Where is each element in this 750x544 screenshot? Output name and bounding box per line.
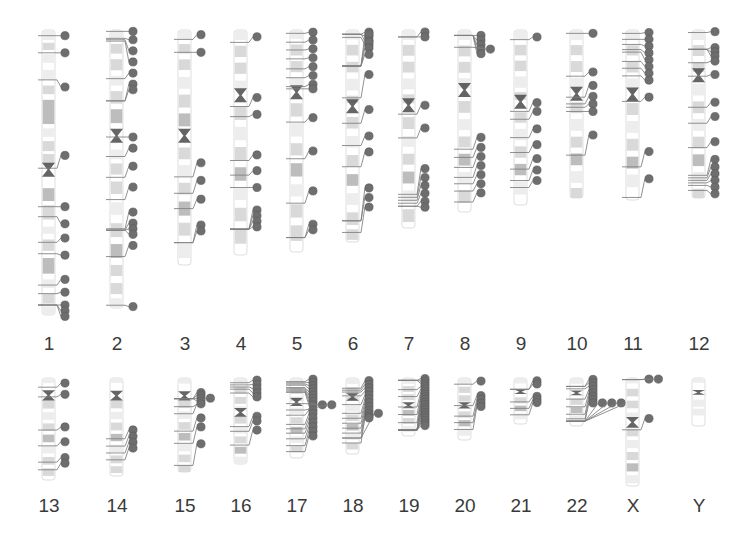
marker-15-7[interactable] [197,423,205,431]
marker-11-8[interactable] [645,93,653,101]
marker-20-4[interactable] [477,402,485,410]
marker-6-4[interactable] [365,30,373,38]
marker-2-0[interactable] [129,27,137,35]
marker-10-1[interactable] [589,68,597,76]
marker-10-3[interactable] [589,92,597,100]
marker-10-6[interactable] [589,131,597,139]
marker-19-18[interactable] [421,421,429,429]
marker-1-9[interactable] [61,288,69,296]
marker-2-3[interactable] [129,58,137,66]
marker-17-17[interactable] [309,432,317,440]
marker-9-6[interactable] [533,166,541,174]
marker-10-2[interactable] [589,81,597,89]
marker-7-2[interactable] [421,101,429,109]
marker-2-15[interactable] [129,241,137,249]
marker-1-8[interactable] [61,275,69,283]
marker-2-4[interactable] [129,69,137,77]
marker-8-7[interactable] [477,143,485,151]
marker-3-3[interactable] [197,176,205,184]
marker-X-2[interactable] [645,414,653,422]
marker-1-7[interactable] [61,251,69,259]
marker-21-1[interactable] [533,380,541,388]
marker-5-5[interactable] [309,71,317,79]
marker-1-4[interactable] [61,203,69,211]
marker-16-7[interactable] [253,426,261,434]
marker-12-8[interactable] [711,138,719,146]
marker-2-14[interactable] [129,230,137,238]
marker-5-10[interactable] [309,187,317,195]
marker-4-9[interactable] [253,223,261,231]
marker-12-9[interactable] [711,155,719,163]
marker-9-3[interactable] [533,125,541,133]
marker-22-10[interactable] [617,399,625,407]
marker-6-9[interactable] [365,105,373,113]
marker-1-1[interactable] [61,49,69,57]
marker-7-1[interactable] [421,33,429,41]
marker-18-10[interactable] [374,409,382,417]
marker-17-9[interactable] [318,401,326,409]
marker-7-7[interactable] [421,189,429,197]
marker-13-0[interactable] [61,379,69,387]
marker-3-4[interactable] [197,195,205,203]
marker-15-6[interactable] [197,414,205,422]
marker-1-6[interactable] [61,234,69,242]
marker-12-4[interactable] [711,57,719,65]
marker-6-10[interactable] [365,132,373,140]
marker-4-1[interactable] [253,93,261,101]
marker-2-1[interactable] [129,36,137,44]
marker-18-12[interactable] [365,414,373,422]
marker-6-13[interactable] [365,193,373,201]
marker-7-5[interactable] [421,173,429,181]
marker-6-8[interactable] [365,70,373,78]
marker-7-3[interactable] [421,124,429,132]
marker-5-1[interactable] [309,36,317,44]
marker-6-12[interactable] [365,184,373,192]
marker-6-14[interactable] [365,203,373,211]
marker-9-5[interactable] [533,155,541,163]
marker-13-5[interactable] [61,459,69,467]
marker-2-9[interactable] [129,162,137,170]
marker-6-7[interactable] [365,50,373,58]
marker-5-8[interactable] [309,114,317,122]
marker-4-3[interactable] [253,151,261,159]
marker-2-7[interactable] [129,133,137,141]
marker-5-3[interactable] [309,54,317,62]
marker-3-6[interactable] [197,227,205,235]
marker-2-11[interactable] [129,208,137,216]
marker-4-4[interactable] [253,167,261,175]
marker-8-12[interactable] [477,189,485,197]
marker-2-16[interactable] [129,303,137,311]
marker-4-2[interactable] [253,110,261,118]
marker-3-0[interactable] [197,31,205,39]
marker-4-0[interactable] [253,33,261,41]
marker-20-0[interactable] [477,377,485,385]
marker-3-2[interactable] [197,159,205,167]
marker-13-1[interactable] [61,390,69,398]
marker-1-2[interactable] [61,83,69,91]
marker-2-10[interactable] [129,183,137,191]
marker-16-4[interactable] [253,393,261,401]
marker-21-4[interactable] [533,399,541,407]
marker-7-9[interactable] [421,203,429,211]
marker-15-5[interactable] [197,400,205,408]
marker-16-6[interactable] [253,417,261,425]
marker-12-6[interactable] [711,98,719,106]
marker-12-5[interactable] [711,70,719,78]
marker-8-8[interactable] [477,152,485,160]
marker-9-1[interactable] [533,99,541,107]
marker-15-8[interactable] [197,440,205,448]
marker-14-3[interactable] [129,444,137,452]
marker-9-7[interactable] [533,176,541,184]
marker-5-4[interactable] [309,63,317,71]
marker-12-14[interactable] [711,190,719,198]
marker-5-9[interactable] [309,147,317,155]
marker-8-10[interactable] [477,171,485,179]
marker-11-9[interactable] [645,147,653,155]
marker-22-8[interactable] [598,399,606,407]
marker-10-5[interactable] [589,107,597,115]
marker-6-11[interactable] [365,148,373,156]
marker-8-9[interactable] [477,161,485,169]
marker-5-7[interactable] [309,85,317,93]
marker-1-3[interactable] [61,151,69,159]
marker-2-2[interactable] [129,47,137,55]
